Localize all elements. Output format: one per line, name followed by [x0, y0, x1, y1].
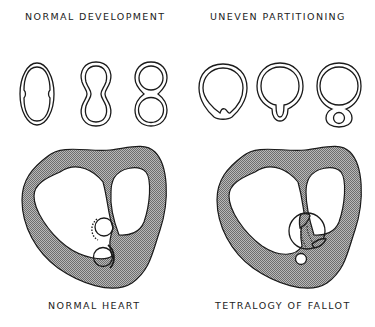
aortic-valve-icon	[95, 218, 113, 236]
heart-wall	[22, 146, 166, 288]
stenotic-pulmonary-icon	[296, 254, 307, 265]
tetralogy-heart-diagram	[217, 146, 361, 288]
trunk-stage-2-icon	[81, 62, 111, 126]
uneven-stage-1-icon	[199, 64, 247, 119]
trunk-stage-3-icon	[135, 62, 167, 126]
uneven-stage-3-icon	[317, 63, 361, 127]
trunk-stage-1-icon	[20, 63, 54, 125]
uneven-partitioning-shapes	[199, 63, 361, 127]
normal-heart-diagram	[22, 146, 166, 288]
uneven-stage-2-icon	[257, 63, 303, 121]
normal-development-shapes	[20, 62, 167, 126]
heart-wall-tetralogy	[217, 146, 361, 288]
diagram-canvas	[0, 0, 375, 327]
